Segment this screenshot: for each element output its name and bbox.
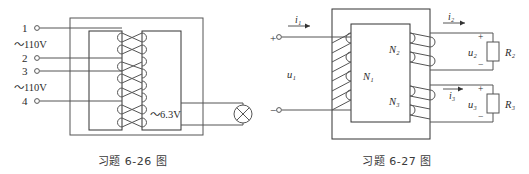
figure-caption-left: 习题 6-26 图 bbox=[0, 152, 265, 168]
terminal-dot-1[interactable] bbox=[35, 26, 40, 31]
voltage-label-u1: u₁ bbox=[287, 69, 296, 80]
winding-label-n1: N₁ bbox=[362, 71, 374, 82]
current-label-i1: i₁ bbox=[295, 14, 301, 25]
figure-caption-right: 习题 6-27 图 bbox=[265, 152, 529, 168]
terminal-label-1: 1 bbox=[22, 22, 28, 34]
figure-6-27: i₁ i₂ i₃ + − u₁ N₁ N₂ N₃ + − u₂ R₂ + − u… bbox=[265, 0, 529, 174]
primary-winding-coils bbox=[118, 33, 123, 127]
three-winding-transformer-schematic: i₁ i₂ i₃ + − u₁ N₁ N₂ N₃ + − u₂ R₂ + − u… bbox=[265, 0, 529, 145]
core-leg-left bbox=[89, 31, 122, 130]
primary-voltage-bottom-label: ～110V bbox=[14, 82, 47, 93]
transformer-lamp-schematic: 1 2 3 4 ～110V ～110V ～6.3V bbox=[0, 0, 265, 145]
voltage-label-u2: u₂ bbox=[468, 47, 477, 58]
terminal-dot-4[interactable] bbox=[35, 99, 40, 104]
diagram-page: 1 2 3 4 ～110V ～110V ～6.3V 习题 6-26 图 bbox=[0, 0, 529, 174]
secondary-voltage-label: ～6.3V bbox=[150, 109, 181, 120]
secondary-winding-coils bbox=[142, 33, 147, 127]
n2-winding-coils bbox=[410, 33, 415, 62]
resistor-label-r3: R₃ bbox=[504, 99, 515, 110]
terminal-label-3: 3 bbox=[22, 65, 28, 77]
core-window bbox=[351, 24, 410, 122]
lamp-symbol bbox=[234, 105, 252, 123]
voltage-label-u3: u₃ bbox=[468, 99, 477, 110]
polarity-r2-plus: + bbox=[478, 32, 483, 42]
terminal-label-2: 2 bbox=[22, 52, 28, 64]
n3-outer-coils bbox=[430, 90, 435, 100]
polarity-primary-plus: + bbox=[270, 32, 276, 44]
resistor-r2-body bbox=[487, 42, 499, 61]
current-label-i3: i₃ bbox=[449, 90, 456, 101]
n2-outer-coils bbox=[430, 37, 435, 66]
primary-terminal-minus[interactable] bbox=[277, 108, 282, 113]
polarity-r3-minus: − bbox=[478, 112, 483, 122]
polarity-r3-plus: + bbox=[478, 84, 483, 94]
winding-label-n3: N₃ bbox=[388, 96, 400, 107]
primary-terminal-plus[interactable] bbox=[277, 35, 282, 40]
terminal-dot-3[interactable] bbox=[35, 69, 40, 74]
terminal-label-4: 4 bbox=[22, 95, 28, 107]
polarity-primary-minus: − bbox=[270, 104, 276, 116]
resistor-label-r2: R₂ bbox=[504, 47, 515, 58]
n3-winding-coils bbox=[410, 86, 415, 115]
current-label-i2: i₂ bbox=[448, 11, 455, 22]
figure-6-26: 1 2 3 4 ～110V ～110V ～6.3V 习题 6-26 图 bbox=[0, 0, 265, 174]
primary-voltage-top-label: ～110V bbox=[14, 39, 47, 50]
resistor-r3-body bbox=[487, 94, 499, 113]
winding-label-n2: N₂ bbox=[388, 44, 400, 55]
terminal-dot-2[interactable] bbox=[35, 56, 40, 61]
coil-interconnects bbox=[122, 33, 142, 127]
polarity-r2-minus: − bbox=[478, 60, 483, 70]
